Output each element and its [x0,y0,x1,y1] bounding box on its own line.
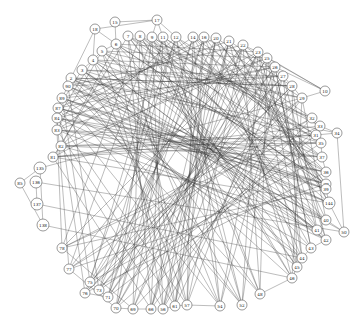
node-37[interactable]: 37 [317,152,327,162]
node-39[interactable]: 39 [321,184,331,194]
node-35[interactable]: 35 [316,138,326,148]
node-label: 41 [314,228,320,233]
node-71[interactable]: 71 [103,292,113,302]
node-26[interactable]: 26 [270,62,280,72]
node-label: 10 [322,89,328,94]
node-89[interactable]: 89 [57,93,67,103]
node-135[interactable]: 135 [34,162,46,174]
node-136[interactable]: 136 [30,176,42,188]
node-48[interactable]: 48 [255,289,265,299]
node-20[interactable]: 20 [211,33,221,43]
node-57[interactable]: 57 [182,300,192,310]
node-76[interactable]: 76 [80,288,90,298]
node-11[interactable]: 11 [158,32,168,42]
node-66[interactable]: 66 [146,304,156,314]
edge-11-75 [90,37,163,282]
node-22[interactable]: 22 [238,40,248,50]
node-56[interactable]: 56 [158,304,168,314]
node-17[interactable]: 17 [152,15,162,25]
node-label: 73 [96,288,102,293]
node-label: 85 [17,181,23,186]
edge-3-27 [82,70,283,76]
node-28[interactable]: 28 [287,81,297,91]
node-144[interactable]: 144 [323,197,335,209]
node-32[interactable]: 32 [307,113,317,123]
node-label: 7 [127,34,130,39]
node-29[interactable]: 29 [297,93,307,103]
node-label: 42 [323,238,329,243]
node-label: 89 [59,96,65,101]
node-45[interactable]: 45 [292,262,302,272]
node-6[interactable]: 6 [111,39,121,49]
node-label: 34 [334,131,340,136]
node-label: 40 [323,218,329,223]
node-54[interactable]: 54 [215,301,225,311]
node-label: 12 [173,35,179,40]
node-label: 17 [154,18,160,23]
node-23[interactable]: 23 [253,47,263,57]
node-label: 18 [92,27,98,32]
node-90[interactable]: 90 [63,81,73,91]
node-18[interactable]: 18 [90,24,100,34]
node-46[interactable]: 46 [287,273,297,283]
node-77[interactable]: 77 [64,264,74,274]
node-33[interactable]: 33 [315,121,325,131]
node-8[interactable]: 8 [135,31,145,41]
node-5[interactable]: 5 [97,46,107,56]
node-73[interactable]: 73 [94,285,104,295]
node-label: 37 [319,155,325,160]
edge-34-50 [337,133,344,232]
node-41[interactable]: 41 [312,225,322,235]
node-75[interactable]: 75 [85,277,95,287]
node-7[interactable]: 7 [123,31,133,41]
node-label: 39 [323,187,329,192]
node-138[interactable]: 138 [37,219,49,231]
node-10[interactable]: 10 [320,86,330,96]
node-137[interactable]: 137 [31,198,43,210]
node-27[interactable]: 27 [278,71,288,81]
node-label: 36 [323,170,329,175]
node-16[interactable]: 16 [199,32,209,42]
node-label: 32 [309,116,315,121]
node-84[interactable]: 84 [52,113,62,123]
node-85[interactable]: 85 [15,178,25,188]
node-44[interactable]: 44 [297,253,307,263]
node-label: 52 [239,303,245,308]
node-43[interactable]: 43 [306,243,316,253]
node-40[interactable]: 40 [321,215,331,225]
node-42[interactable]: 42 [321,235,331,245]
edge-22-77 [69,45,243,269]
node-label: 84 [54,116,60,121]
edge-46-48 [260,278,292,294]
node-78[interactable]: 78 [57,243,67,253]
node-15[interactable]: 15 [110,17,120,27]
node-label: 48 [257,292,263,297]
node-81[interactable]: 81 [48,152,58,162]
node-label: 76 [82,291,88,296]
node-34[interactable]: 34 [332,128,342,138]
network-graph: 1517187891112141620212265432232526272829… [0,0,357,327]
node-25[interactable]: 25 [262,53,272,63]
node-label: 54 [217,304,223,309]
node-82[interactable]: 82 [56,141,66,151]
node-label: 66 [148,307,154,312]
node-12[interactable]: 12 [171,32,181,42]
node-69[interactable]: 69 [128,304,138,314]
node-36[interactable]: 36 [321,167,331,177]
node-label: 81 [50,155,56,160]
node-87[interactable]: 87 [53,103,63,113]
edge-135-138 [40,168,43,225]
node-21[interactable]: 21 [224,36,234,46]
node-50[interactable]: 50 [339,227,349,237]
node-label: 136 [32,180,40,185]
node-14[interactable]: 14 [188,32,198,42]
node-9[interactable]: 9 [147,32,157,42]
node-4[interactable]: 4 [88,55,98,65]
node-label: 50 [341,230,347,235]
node-label: 144 [325,201,333,206]
node-52[interactable]: 52 [237,300,247,310]
node-83[interactable]: 83 [52,125,62,135]
node-70[interactable]: 70 [111,303,121,313]
node-61[interactable]: 61 [170,301,180,311]
node-3[interactable]: 3 [77,65,87,75]
